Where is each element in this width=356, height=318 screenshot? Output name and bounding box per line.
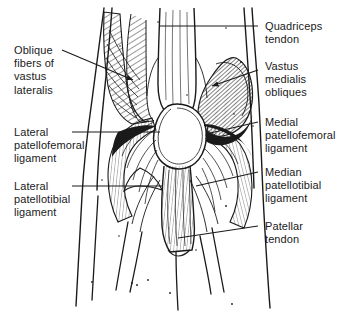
lower-leg-contours bbox=[92, 196, 224, 310]
label-medial-patellofemoral-ligament: Medial patellofemoral ligament bbox=[265, 116, 336, 156]
knee-anatomy-diagram: Oblique fibers of vastus lateralis Later… bbox=[0, 0, 356, 318]
label-lateral-patellofemoral-ligament: Lateral patellofemoral ligament bbox=[14, 126, 85, 166]
vastus-lateralis-muscle bbox=[104, 12, 154, 124]
label-quadriceps-tendon: Quadriceps tendon bbox=[265, 20, 322, 46]
label-median-patellotibial-ligament: Median patellotibial ligament bbox=[265, 166, 321, 206]
quadriceps-tendon-structure bbox=[147, 8, 207, 110]
label-lateral-patellotibial-ligament: Lateral patellotibial ligament bbox=[14, 180, 70, 220]
patellar-tendon-structure bbox=[162, 166, 195, 256]
patella-bone bbox=[154, 104, 207, 169]
label-patellar-tendon: Patellar tendon bbox=[265, 220, 303, 246]
label-vastus-medialis-obliques: Vastus medialis obliques bbox=[265, 60, 307, 100]
label-oblique-fibers-of-vastus-lateralis: Oblique fibers of vastus lateralis bbox=[14, 44, 54, 97]
